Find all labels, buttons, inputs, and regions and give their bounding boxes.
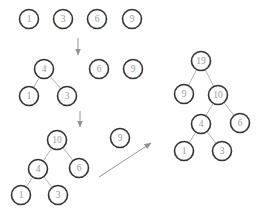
node-label: 3 bbox=[220, 146, 225, 156]
node-label: 4 bbox=[36, 164, 41, 174]
node-label: 10 bbox=[52, 135, 62, 145]
node-label: 9 bbox=[118, 133, 123, 143]
node-label: 9 bbox=[182, 89, 187, 99]
node-label: 6 bbox=[77, 163, 82, 173]
node-label: 6 bbox=[238, 118, 243, 128]
node-label: 3 bbox=[56, 190, 61, 200]
stage-1-forest-of-leaves: 1369 bbox=[20, 10, 142, 29]
node-label: 4 bbox=[42, 64, 47, 74]
node-label: 4 bbox=[199, 119, 204, 129]
node-label: 19 bbox=[196, 56, 206, 66]
diagonal-arrow-stage3-to-final-icon bbox=[99, 143, 151, 177]
stage-2-merge-1-and-3: 41369 bbox=[20, 60, 143, 106]
node-label: 1 bbox=[19, 190, 24, 200]
node-label: 9 bbox=[131, 64, 136, 74]
node-label: 6 bbox=[97, 64, 102, 74]
huffman-construction-figure: 1369413691046139199104613 bbox=[0, 0, 258, 218]
stage-3-merge-4-and-6: 1046139 bbox=[12, 129, 130, 205]
node-label: 3 bbox=[65, 91, 70, 101]
node-label: 1 bbox=[27, 14, 32, 24]
node-label: 10 bbox=[213, 90, 223, 100]
node-label: 1 bbox=[182, 146, 187, 156]
node-label: 1 bbox=[27, 91, 32, 101]
huffman-construction-diagram: 1369413691046139199104613 bbox=[0, 0, 258, 218]
node-label: 9 bbox=[130, 14, 135, 24]
node-label: 6 bbox=[95, 14, 100, 24]
node-label: 3 bbox=[61, 14, 66, 24]
